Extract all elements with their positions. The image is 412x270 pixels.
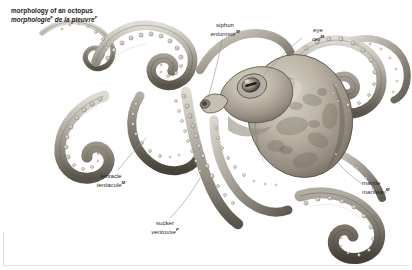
- label-mantle-french-word: manteau: [362, 188, 386, 195]
- label-tentacle: tentacle tentaculeM: [80, 172, 142, 189]
- title-french: morphologieF de la pieuvreF: [11, 15, 97, 24]
- title-french-word: morphologie: [11, 16, 50, 23]
- label-sucker-french: ventouseF: [134, 227, 196, 236]
- title-french-gender-2: F: [95, 15, 98, 20]
- label-siphon-english: siphon: [194, 21, 256, 29]
- label-sucker-french-word: ventouse: [151, 228, 176, 235]
- label-tentacle-french: tentaculeM: [80, 180, 142, 189]
- title-french-rest: de la pieuvre: [53, 16, 95, 23]
- title-english: morphology of an octopus: [11, 7, 97, 15]
- label-mantle-gender: M: [386, 187, 390, 192]
- label-sucker-english: sucker: [134, 219, 196, 227]
- label-sucker-gender: F: [176, 227, 179, 232]
- label-tentacle-gender: M: [122, 180, 126, 185]
- illustration-page: morphology of an octopus morphologieF de…: [0, 0, 412, 270]
- label-mantle-french: manteauM: [362, 187, 410, 196]
- label-siphon-french: entonnoirM: [194, 29, 256, 38]
- label-eye: eye œilM: [300, 26, 336, 43]
- label-tentacle-english: tentacle: [80, 172, 142, 180]
- label-tentacle-french-word: tentacule: [97, 181, 122, 188]
- page-title: morphology of an octopus morphologieF de…: [11, 7, 97, 25]
- label-eye-gender: M: [320, 34, 324, 39]
- label-sucker: sucker ventouseF: [134, 219, 196, 236]
- label-siphon-french-word: entonnoir: [210, 30, 235, 37]
- label-mantle-english: mantle: [362, 179, 410, 187]
- label-mantle: mantle manteauM: [362, 179, 410, 196]
- label-siphon-gender: M: [236, 29, 240, 34]
- label-eye-english: eye: [300, 26, 336, 34]
- label-eye-french: œilM: [300, 34, 336, 43]
- octopus-illustration: [0, 0, 412, 270]
- label-siphon: siphon entonnoirM: [194, 21, 256, 38]
